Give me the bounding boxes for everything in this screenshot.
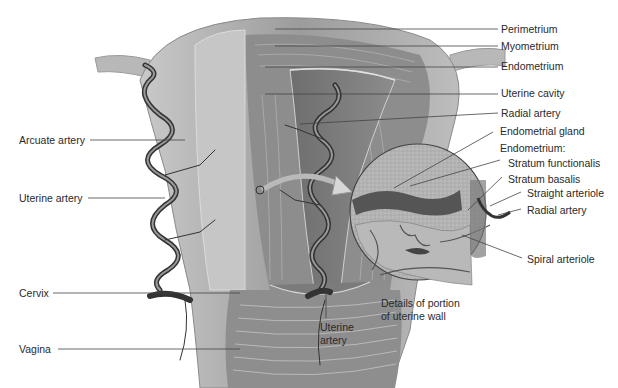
label-uterine-artery: Uterine artery <box>19 192 83 204</box>
label-uterine-cavity: Uterine cavity <box>501 87 565 99</box>
label-myometrium: Myometrium <box>501 40 559 52</box>
label-straight-arteriole: Straight arteriole <box>527 187 604 199</box>
uterine-wall-detail-inset <box>350 144 510 285</box>
anatomy-illustration <box>0 0 618 388</box>
label-stratum-functionalis: Stratum functionalis <box>508 157 600 169</box>
label-endometrium-heading: Endometrium: <box>500 142 565 154</box>
label-inset-radial-artery: Radial artery <box>527 204 587 216</box>
label-vagina: Vagina <box>19 343 51 355</box>
uterus-diagram: Perimetrium Myometrium Endometrium Uteri… <box>0 0 618 388</box>
label-radial-artery: Radial artery <box>501 107 561 119</box>
label-endometrial-gland: Endometrial gland <box>500 125 585 137</box>
label-uterine-artery-right-line2: artery <box>320 334 347 346</box>
inset-caption-line1: Details of portion <box>381 297 460 309</box>
inset-caption-line2: of uterine wall <box>381 310 446 322</box>
label-spiral-arteriole: Spiral arteriole <box>527 253 595 265</box>
label-uterine-artery-right-line1: Uterine <box>320 321 354 333</box>
label-cervix: Cervix <box>19 287 49 299</box>
label-endometrium: Endometrium <box>501 60 563 72</box>
label-arcuate-artery: Arcuate artery <box>19 134 85 146</box>
label-stratum-basalis: Stratum basalis <box>508 173 580 185</box>
label-perimetrium: Perimetrium <box>501 23 558 35</box>
